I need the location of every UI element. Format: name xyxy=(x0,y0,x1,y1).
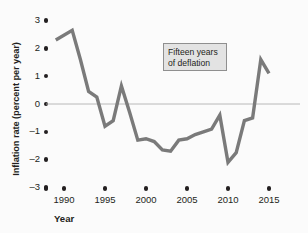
chart-figure: Inflation rate (percent per year) 3210–1… xyxy=(0,0,308,233)
annotation-line-1: Fifteen years xyxy=(168,47,222,58)
x-axis-title: Year xyxy=(54,213,74,224)
annotation-line-2: of deflation xyxy=(168,58,222,69)
plot-area xyxy=(0,0,308,233)
deflation-annotation: Fifteen years of deflation xyxy=(163,43,227,71)
